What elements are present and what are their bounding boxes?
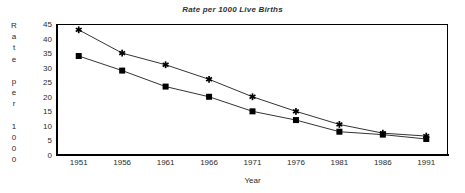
y-tick-label: 5	[28, 136, 52, 145]
y-axis-tick-labels: 454035302520151050	[28, 19, 52, 160]
data-point-square-marker	[293, 117, 299, 123]
data-point-star-marker	[163, 61, 169, 68]
data-point-star-marker	[336, 121, 342, 128]
y-tick-label: 25	[28, 78, 52, 87]
x-tick-label: 1986	[363, 158, 403, 168]
x-tick-label: 1956	[102, 158, 142, 168]
data-point-square-marker	[380, 132, 386, 138]
data-point-square-marker	[76, 53, 82, 59]
data-point-square-marker	[423, 136, 429, 142]
data-point-star-marker	[119, 50, 125, 57]
data-point-square-marker	[336, 129, 342, 135]
x-tick-label: 1966	[189, 158, 229, 168]
x-tick-label: 1961	[146, 158, 186, 168]
data-point-star-marker	[206, 76, 212, 83]
data-point-star-marker	[293, 108, 299, 115]
chart-title: Rate per 1000 Live Births	[0, 5, 465, 14]
y-tick-label: 20	[28, 92, 52, 101]
y-axis-title: R a t e p e r 1 0 0 0	[6, 20, 22, 166]
y-tick-label: 30	[28, 63, 52, 72]
x-tick-label: 1991	[406, 158, 446, 168]
x-tick-label: 1981	[319, 158, 359, 168]
plot-series-canvas	[57, 24, 448, 155]
x-axis-title: Year	[57, 176, 448, 185]
data-point-star-marker	[250, 93, 256, 100]
chart-screenshot: Rate per 1000 Live Births R a t e p e r …	[0, 0, 465, 193]
y-tick-label: 10	[28, 121, 52, 130]
x-tick-label: 1971	[233, 158, 273, 168]
y-tick-label: 40	[28, 34, 52, 43]
data-point-square-marker	[206, 94, 212, 100]
data-point-square-marker	[250, 108, 256, 114]
data-point-square-marker	[163, 84, 169, 90]
x-tick-label: 1976	[276, 158, 316, 168]
y-tick-label: 15	[28, 107, 52, 116]
x-axis-tick-labels: 195119561961196619711976198119861991	[57, 158, 448, 170]
y-tick-label: 35	[28, 49, 52, 58]
data-point-star-marker	[76, 26, 82, 33]
data-point-square-marker	[119, 68, 125, 74]
x-tick-label: 1951	[59, 158, 99, 168]
y-tick-label: 0	[28, 151, 52, 160]
series-upper-series	[76, 26, 429, 139]
series-line	[79, 30, 427, 136]
y-tick-label: 45	[28, 20, 52, 29]
